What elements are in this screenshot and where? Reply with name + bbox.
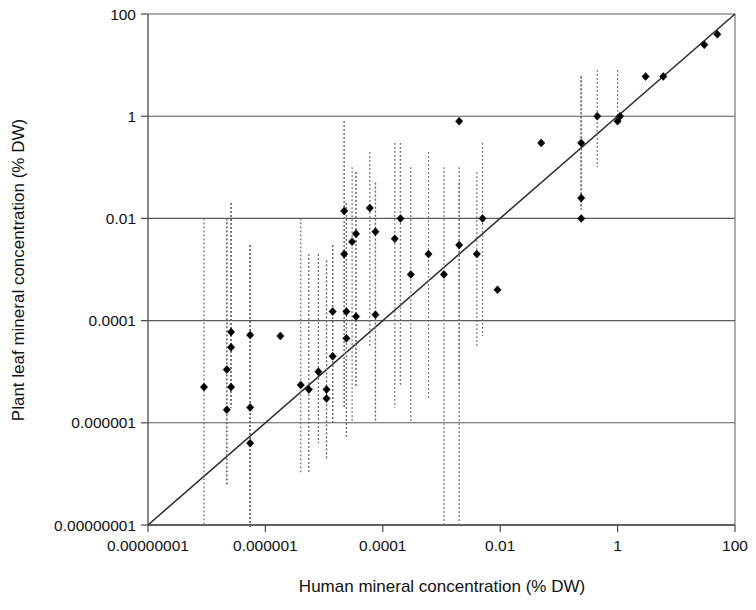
data-point-marker: [479, 214, 486, 222]
x-tick-label: 100: [722, 537, 748, 554]
data-point-marker: [407, 270, 414, 278]
data-point-marker: [246, 331, 253, 339]
x-tick-label: 0.00000001: [107, 537, 189, 554]
data-point-marker: [329, 308, 336, 316]
data-point-marker: [277, 332, 284, 340]
data-point-marker: [246, 439, 253, 447]
y-tick-label: 100: [110, 6, 136, 23]
x-axis-tick-labels: 0.000000010.0000010.00010.011100: [107, 537, 748, 554]
data-point-marker: [594, 112, 601, 120]
data-point-marker: [473, 250, 480, 258]
x-axis-title: Human mineral concentration (% DW): [299, 577, 585, 596]
data-point-marker: [227, 343, 234, 351]
data-point-marker: [578, 194, 585, 202]
data-point-marker: [348, 238, 355, 246]
data-point-marker: [391, 235, 398, 243]
data-point-marker: [538, 139, 545, 147]
error-bars-group: [204, 70, 618, 527]
y-axis-title: Plant leaf mineral concentration (% DW): [9, 119, 28, 421]
y-tick-label: 0.01: [106, 210, 136, 227]
scatter-plot: 0.000000010.0000010.00010.011100 0.00000…: [0, 0, 756, 610]
x-tick-label: 1: [613, 537, 622, 554]
data-point-marker: [578, 214, 585, 222]
data-point-marker: [223, 366, 230, 374]
data-point-marker: [352, 230, 359, 238]
y-tick-label: 0.0001: [89, 312, 136, 329]
data-point-marker: [494, 286, 501, 294]
data-point-marker: [701, 41, 708, 49]
identity-line: [148, 14, 735, 525]
data-point-marker: [329, 352, 336, 360]
x-tick-label: 0.0001: [359, 537, 406, 554]
y-tick-label: 0.000001: [71, 414, 136, 431]
y-tick-label: 1: [127, 108, 136, 125]
data-point-marker: [455, 241, 462, 249]
data-point-marker: [455, 117, 462, 125]
data-point-marker: [323, 394, 330, 402]
x-tick-label: 0.01: [485, 537, 515, 554]
data-point-marker: [227, 383, 234, 391]
data-point-marker: [227, 328, 234, 336]
y-axis-tick-labels: 0.000000010.0000010.00010.011100: [54, 6, 136, 534]
data-point-marker: [366, 204, 373, 212]
figure-container: 0.000000010.0000010.00010.011100 0.00000…: [0, 0, 756, 610]
data-points-group: [200, 30, 721, 447]
data-point-marker: [642, 72, 649, 80]
identity-reference-line: [148, 14, 735, 525]
data-point-marker: [372, 311, 379, 319]
y-tick-label: 0.00000001: [54, 517, 136, 534]
data-point-marker: [440, 270, 447, 278]
data-point-marker: [425, 250, 432, 258]
data-point-marker: [352, 313, 359, 321]
data-point-marker: [323, 385, 330, 393]
data-point-marker: [343, 334, 350, 342]
data-point-marker: [223, 406, 230, 414]
data-point-marker: [200, 383, 207, 391]
data-point-marker: [246, 403, 253, 411]
data-point-marker: [397, 214, 404, 222]
data-point-marker: [372, 228, 379, 236]
x-tick-label: 0.000001: [233, 537, 298, 554]
data-point-marker: [297, 381, 304, 389]
